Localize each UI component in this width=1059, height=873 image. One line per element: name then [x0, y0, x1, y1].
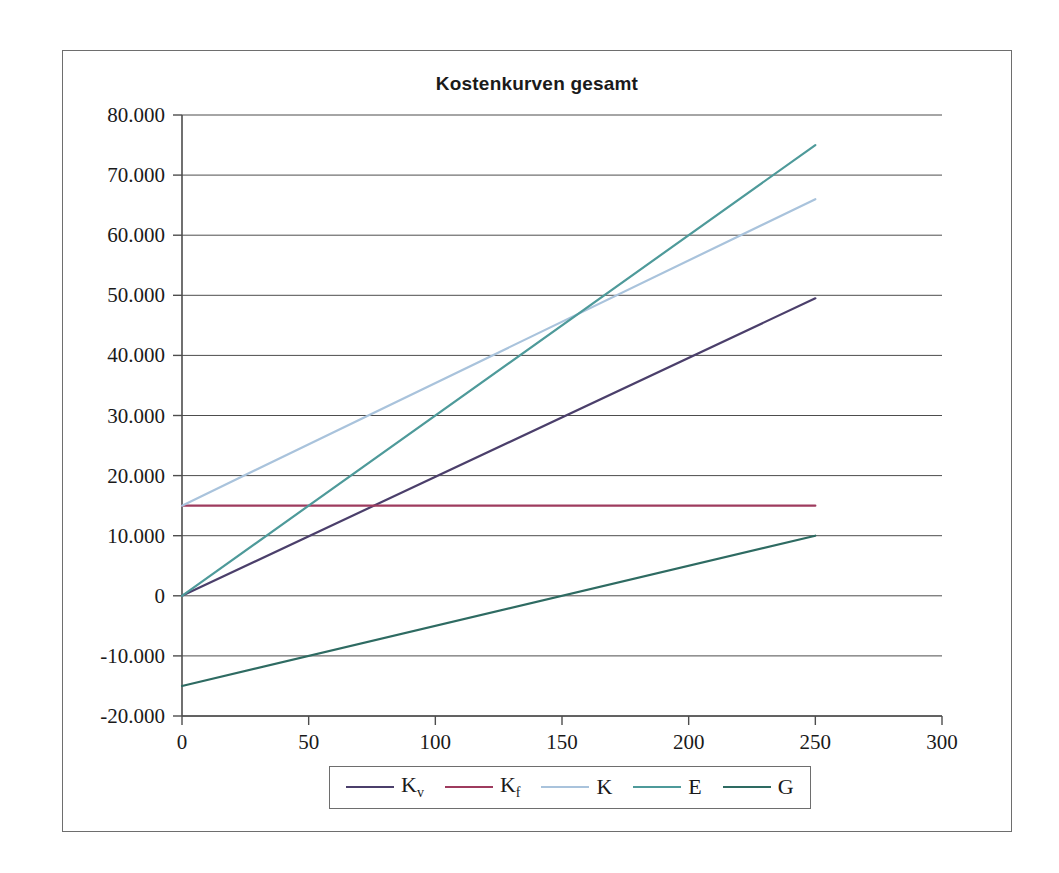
x-axis-tick-label: 250 — [800, 730, 832, 754]
legend-item-Kf[interactable]: Kf — [445, 774, 521, 800]
x-axis-tick-label: 0 — [177, 730, 188, 754]
series-line-K — [182, 199, 815, 506]
legend-swatch-K — [541, 786, 589, 788]
y-axis-tick-label: -10.000 — [100, 644, 165, 668]
legend-label-K: K — [596, 776, 612, 798]
y-axis-tick-label: 80.000 — [107, 103, 165, 127]
y-axis-tick-label: 40.000 — [107, 343, 165, 367]
legend-label-subscript-Kf: f — [516, 785, 521, 800]
chart-legend: KvKfKEG — [329, 766, 811, 809]
legend-label-Kv: Kv — [401, 774, 424, 800]
series-line-G — [182, 536, 815, 686]
chart-canvas: Kostenkurven gesamt -20.000-10.000010.00… — [63, 51, 1011, 831]
legend-swatch-G — [723, 786, 771, 788]
legend-label-subscript-Kv: v — [417, 785, 424, 800]
legend-item-G[interactable]: G — [723, 776, 794, 798]
y-axis-tick-label: 30.000 — [107, 404, 165, 428]
y-axis-tick-label: 50.000 — [107, 283, 165, 307]
y-axis-tick-label: 10.000 — [107, 524, 165, 548]
figure-frame: Kostenkurven gesamt -20.000-10.000010.00… — [62, 50, 1012, 832]
legend-label-Kf: Kf — [500, 774, 521, 800]
legend-swatch-Kf — [445, 786, 493, 788]
legend-label-G: G — [778, 776, 794, 798]
x-axis-tick-label: 200 — [673, 730, 705, 754]
legend-swatch-E — [633, 786, 681, 788]
x-axis-tick-label: 300 — [926, 730, 958, 754]
legend-item-E[interactable]: E — [633, 776, 701, 798]
x-axis-tick-label: 150 — [546, 730, 578, 754]
legend-item-Kv[interactable]: Kv — [346, 774, 424, 800]
legend-label-E: E — [688, 776, 701, 798]
x-axis-tick-label: 50 — [298, 730, 319, 754]
plot-area: -20.000-10.000010.00020.00030.00040.0005… — [63, 51, 1013, 833]
legend-item-K[interactable]: K — [541, 776, 612, 798]
series-line-E — [182, 145, 815, 596]
series-line-Kv — [182, 298, 815, 595]
y-axis-tick-label: 0 — [155, 584, 166, 608]
legend-swatch-Kv — [346, 786, 394, 788]
y-axis-tick-label: -20.000 — [100, 704, 165, 728]
y-axis-tick-label: 70.000 — [107, 163, 165, 187]
y-axis-tick-label: 20.000 — [107, 464, 165, 488]
y-axis-tick-label: 60.000 — [107, 223, 165, 247]
x-axis-tick-label: 100 — [420, 730, 452, 754]
